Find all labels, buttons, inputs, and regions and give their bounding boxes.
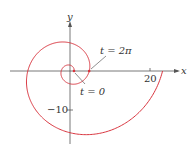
annotation-t-2pi: t = 2π [100, 46, 132, 56]
y-axis-label: y [67, 12, 73, 22]
plot-area [0, 0, 195, 148]
x-axis-label: x [181, 66, 187, 76]
point-t0 [73, 70, 76, 73]
y-tick-label-neg10: −10 [47, 105, 68, 115]
annotation-t-0: t = 0 [80, 87, 105, 97]
x-tick-label-20: 20 [144, 74, 157, 84]
x-axis-arrow-icon [174, 69, 180, 73]
spiral-chart: x y 20 −10 t = 2π t = 0 [0, 0, 195, 148]
leader-t2pi [91, 56, 106, 69]
point-t2pi [88, 70, 91, 73]
